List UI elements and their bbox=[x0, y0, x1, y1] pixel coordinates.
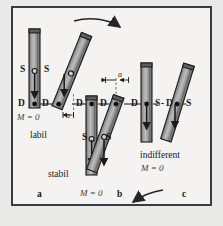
centroid-label-b1: S bbox=[82, 133, 87, 143]
caption-b: b bbox=[117, 190, 122, 200]
state-label-labil: labil bbox=[30, 131, 47, 141]
centroid-label-c1: S bbox=[155, 99, 160, 109]
centroid-label-a2: S bbox=[44, 65, 49, 75]
offset-label-b: a bbox=[118, 71, 122, 79]
pivot-label-c1: D bbox=[131, 99, 138, 109]
moment-label-b: M = 0 bbox=[80, 189, 103, 198]
curved-arrow-left-icon bbox=[133, 190, 163, 202]
centroid-label-b2: S bbox=[106, 133, 111, 143]
caption-a: a bbox=[37, 190, 42, 200]
curved-arrow-right-icon bbox=[74, 19, 120, 27]
moment-label-c: M = 0 bbox=[141, 164, 164, 173]
pivot-label-c2: D bbox=[166, 99, 173, 109]
moment-label-a: M = 0 bbox=[17, 113, 40, 122]
state-label-indifferent: indifferent bbox=[140, 151, 180, 161]
dimension-a-right bbox=[106, 77, 129, 83]
dash-c: - bbox=[161, 99, 164, 109]
pivot-label-b2: D bbox=[100, 99, 107, 109]
caption-c: c bbox=[182, 190, 186, 200]
pivot-label-a1: D bbox=[18, 99, 25, 109]
centroid-label-a1: S bbox=[20, 65, 25, 75]
state-label-stabil: stabil bbox=[48, 170, 69, 180]
pivot-label-a2: D bbox=[42, 99, 49, 109]
physics-equilibrium-figure: S S D D M = 0 a labil D D S S a stabil M… bbox=[0, 0, 223, 226]
centroid-label-c2: S bbox=[186, 99, 191, 109]
offset-label-a: a bbox=[66, 112, 70, 120]
pivot-label-b1: D bbox=[76, 99, 83, 109]
bar-a-vertical bbox=[29, 29, 40, 108]
bar-c-vertical bbox=[141, 63, 152, 142]
